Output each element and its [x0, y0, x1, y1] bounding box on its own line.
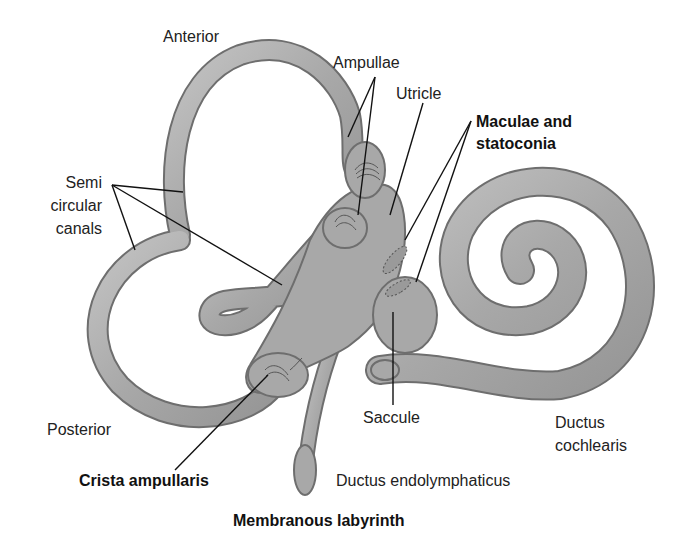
posterior-ampulla: [248, 353, 308, 397]
anterior-ampulla: [323, 208, 367, 248]
labyrinth-illustration: [0, 0, 682, 546]
label-semi-line2: circular: [30, 196, 102, 215]
label-ductus-cochlearis-line1: Ductus: [555, 413, 605, 432]
label-posterior: Posterior: [47, 420, 111, 439]
label-semi-line3: canals: [30, 219, 102, 238]
label-saccule: Saccule: [363, 408, 420, 427]
cochlear-duct-end: [371, 360, 399, 380]
label-ductus-endolymphaticus: Ductus endolymphaticus: [336, 471, 510, 490]
label-ampullae: Ampullae: [333, 53, 400, 72]
superior-ampulla: [345, 142, 385, 198]
label-maculae-line2: statoconia: [476, 134, 556, 153]
figure-title: Membranous labyrinth: [233, 511, 405, 530]
label-semi-line1: Semi: [40, 173, 102, 192]
label-utricle: Utricle: [396, 84, 441, 103]
label-ductus-cochlearis-line2: cochlearis: [555, 436, 627, 455]
label-anterior: Anterior: [163, 27, 219, 46]
label-maculae-line1: Maculae and: [476, 112, 572, 131]
label-crista-ampullaris: Crista ampullaris: [79, 471, 209, 490]
endolymphatic-sac: [294, 445, 316, 495]
